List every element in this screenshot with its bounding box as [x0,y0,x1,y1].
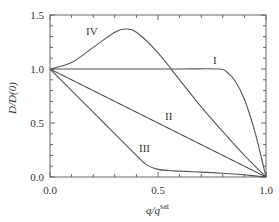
y-tick-label-0: 0.0 [30,171,44,183]
x-tick-label-1.0: 1.0 [259,184,273,196]
x-axis-title: q/qsat [146,202,170,216]
curve-label-III: III [139,142,150,154]
plot-frame [50,15,266,177]
y-tick-label-0.5: 0.5 [30,117,44,129]
y-tick-label-1.0: 1.0 [30,63,44,75]
curve-IV [50,29,266,177]
curves [50,29,266,177]
curve-label-I: I [213,54,217,66]
x-tick-label-0.5: 0.5 [151,184,165,196]
curve-II [50,69,266,177]
y-tick-label-1.5: 1.5 [30,9,44,21]
curve-label-II: II [165,110,173,122]
x-tick-label-0.0: 0.0 [43,184,57,196]
y-axis-title: D/D(0) [6,82,19,115]
axis-ticks [50,15,266,177]
line-chart: 0.0 0.5 1.0 1.5 0.0 0.5 1.0 IV I II III … [0,0,279,222]
curve-label-IV: IV [86,25,98,37]
